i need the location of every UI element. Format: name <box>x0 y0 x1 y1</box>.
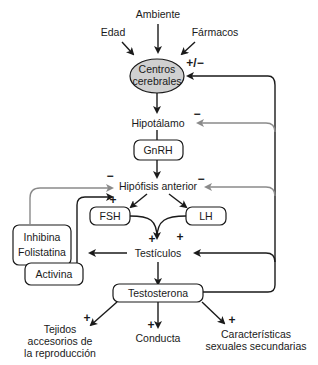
sign-tejidos: + <box>83 311 90 325</box>
arrow-hipofisis-to-fsh <box>131 194 147 207</box>
inhibina-label-line1: Inhibina <box>24 231 61 243</box>
tejidos-label-line3: la reproducción <box>24 347 96 359</box>
output-tejidos: Tejidos accesorios de la reproducción <box>24 323 96 359</box>
node-hipofisis-anterior: Hipófisis anterior <box>119 180 198 192</box>
node-testosterona: Testosterona <box>113 284 203 302</box>
fsh-label: FSH <box>100 210 121 222</box>
sign-hipofisis-right-feedback: − <box>197 172 204 186</box>
sign-hipofisis-activina: + <box>109 193 116 207</box>
arrow-edad-to-centros <box>122 42 133 54</box>
output-caracteristicas: Características sexuales secundarias <box>206 328 307 352</box>
caracteristicas-label-line2: sexuales secundarias <box>206 340 307 352</box>
tejidos-label-line1: Tejidos <box>44 323 77 335</box>
inhibina-label-line2: Folistatina <box>18 246 66 258</box>
node-fsh: FSH <box>90 207 130 225</box>
sign-caracteristicas: + <box>228 313 235 327</box>
testosterona-label: Testosterona <box>128 287 188 299</box>
sign-testiculos-fsh: + <box>148 232 155 246</box>
hormone-regulation-diagram: Ambiente Edad Fármacos Centros cerebrale… <box>0 0 318 365</box>
node-activina: Activina <box>25 263 83 285</box>
node-gnrh: GnRH <box>134 140 183 160</box>
sign-centros-feedback: +/− <box>186 56 203 70</box>
arrow-hipofisis-to-lh <box>169 194 186 207</box>
centros-label-line1: Centros <box>139 63 176 75</box>
lh-label: LH <box>199 210 212 222</box>
arrow-testosterona-to-caracteristicas <box>202 302 224 323</box>
sign-hipofisis-inhibina: − <box>106 169 113 183</box>
sign-testiculos-right: + <box>176 230 183 244</box>
input-ambiente-label: Ambiente <box>136 8 181 20</box>
arrow-feedback-to-hipotalamo <box>198 123 275 132</box>
activina-label: Activina <box>36 268 73 280</box>
tejidos-label-line2: accesorios de <box>28 335 93 347</box>
arrow-testosterona-to-tejidos <box>91 302 117 325</box>
arrow-farmacos-to-centros <box>182 42 195 54</box>
node-inhibina-folistatina: Inhibina Folistatina <box>13 225 71 265</box>
sign-conducta: + <box>147 318 154 332</box>
node-testiculos: Testículos <box>135 247 182 259</box>
sign-hipotalamo-feedback: − <box>193 107 200 121</box>
input-farmacos-label: Fármacos <box>192 26 239 38</box>
centros-label-line2: cerebrales <box>132 75 181 87</box>
arrow-feedback-to-hipofisis <box>206 187 275 196</box>
input-edad-label: Edad <box>101 26 126 38</box>
node-lh: LH <box>186 207 226 225</box>
node-centros-cerebrales: Centros cerebrales <box>130 59 184 93</box>
node-hipotalamo: Hipotálamo <box>131 117 184 129</box>
caracteristicas-label-line1: Características <box>221 328 291 340</box>
arrow-feedback-to-testiculos <box>195 253 275 262</box>
gnrh-label: GnRH <box>143 144 172 156</box>
output-conducta: Conducta <box>136 332 181 344</box>
